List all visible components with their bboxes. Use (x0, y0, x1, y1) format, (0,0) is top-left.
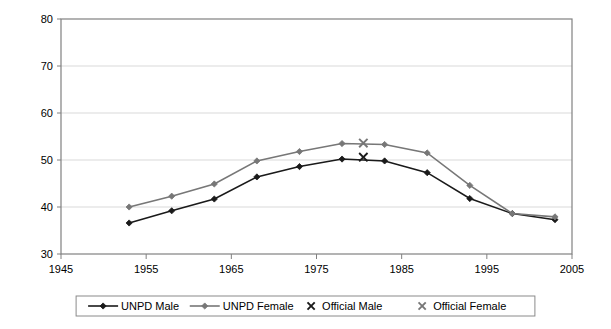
x-tick-label-1985: 1985 (389, 263, 413, 275)
y-tick-label-70: 70 (41, 60, 53, 72)
legend-label: UNPD Female (223, 300, 294, 312)
x-tick-label-1975: 1975 (304, 263, 328, 275)
y-tick-label-40: 40 (41, 201, 53, 213)
chart-background (0, 0, 611, 329)
y-tick-label-80: 80 (41, 13, 53, 25)
legend-label: Official Male (322, 300, 382, 312)
legend-label: UNPD Male (121, 300, 179, 312)
y-tick-label-30: 30 (41, 248, 53, 260)
chart-canvas: 304050607080 194519551965197519851995200… (0, 0, 611, 329)
legend-label: Official Female (433, 300, 506, 312)
x-tick-label-1965: 1965 (219, 263, 243, 275)
y-tick-label-60: 60 (41, 107, 53, 119)
x-tick-label-1945: 1945 (49, 263, 73, 275)
chart-legend: UNPD MaleUNPD FemaleOfficial MaleOfficia… (76, 296, 535, 316)
x-tick-label-2005: 2005 (560, 263, 584, 275)
x-tick-label-1995: 1995 (475, 263, 499, 275)
y-tick-label-50: 50 (41, 154, 53, 166)
line-chart: 304050607080 194519551965197519851995200… (0, 0, 611, 329)
x-tick-label-1955: 1955 (134, 263, 158, 275)
